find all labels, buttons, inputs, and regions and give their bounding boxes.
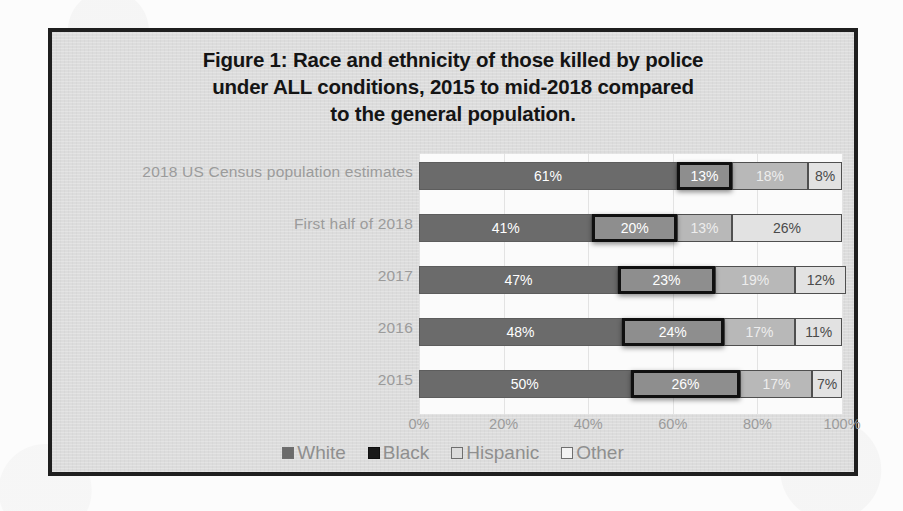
bar-segment-hispanic: 17% bbox=[740, 370, 812, 398]
legend-swatch-icon bbox=[561, 447, 573, 459]
segment-value-label: 19% bbox=[741, 273, 769, 287]
bar-segment-other: 26% bbox=[732, 214, 842, 242]
segment-value-label: 24% bbox=[659, 325, 687, 339]
bar-segment-other: 12% bbox=[795, 266, 846, 294]
legend-label: Black bbox=[383, 442, 429, 464]
segment-value-label: 26% bbox=[671, 377, 699, 391]
x-axis-tick: 100% bbox=[823, 416, 860, 432]
figure-panel: Figure 1: Race and ethnicity of those ki… bbox=[48, 28, 858, 476]
segment-value-label: 17% bbox=[745, 325, 773, 339]
x-axis-tick: 20% bbox=[489, 416, 518, 432]
stacked-bar: 50%26%17%7% bbox=[419, 370, 842, 398]
segment-value-label: 12% bbox=[807, 273, 835, 287]
segment-value-label: 17% bbox=[762, 377, 790, 391]
bar-segment-black: 23% bbox=[618, 266, 715, 294]
segment-value-label: 23% bbox=[652, 273, 680, 287]
x-axis-tick: 0% bbox=[409, 416, 430, 432]
chart-row: 2018 US Census population estimates61%13… bbox=[52, 150, 854, 202]
bar-segment-black: 24% bbox=[622, 318, 724, 346]
legend-item-hispanic[interactable]: Hispanic bbox=[451, 442, 539, 464]
chart-row: 201550%26%17%7% bbox=[52, 358, 854, 410]
segment-value-label: 7% bbox=[817, 377, 837, 391]
stacked-bar: 61%13%18%8% bbox=[419, 162, 842, 190]
page-canvas: Figure 1: Race and ethnicity of those ki… bbox=[0, 0, 903, 511]
legend-item-white[interactable]: White bbox=[282, 442, 346, 464]
segment-value-label: 20% bbox=[621, 221, 649, 235]
x-axis: 0%20%40%60%80%100% bbox=[419, 416, 842, 438]
segment-value-label: 18% bbox=[756, 169, 784, 183]
bar-segment-black: 13% bbox=[677, 162, 732, 190]
segment-value-label: 41% bbox=[492, 221, 520, 235]
bar-segment-white: 41% bbox=[419, 214, 592, 242]
legend-swatch-icon bbox=[282, 447, 294, 459]
figure-title-line-2: under ALL conditions, 2015 to mid-2018 c… bbox=[86, 73, 820, 100]
segment-value-label: 26% bbox=[773, 221, 801, 235]
legend-label: Other bbox=[576, 442, 624, 464]
segment-value-label: 48% bbox=[507, 325, 535, 339]
row-label: 2017 bbox=[378, 267, 413, 285]
chart-row: 201747%23%19%12% bbox=[52, 254, 854, 306]
figure-title-line-3: to the general population. bbox=[86, 100, 820, 127]
segment-value-label: 61% bbox=[534, 169, 562, 183]
bar-segment-other: 8% bbox=[808, 162, 842, 190]
x-axis-tick: 60% bbox=[658, 416, 687, 432]
row-label: 2018 US Census population estimates bbox=[142, 163, 413, 181]
bar-segment-black: 20% bbox=[592, 214, 677, 242]
stacked-bar: 41%20%13%26% bbox=[419, 214, 842, 242]
figure-title: Figure 1: Race and ethnicity of those ki… bbox=[86, 46, 820, 127]
legend-item-other[interactable]: Other bbox=[561, 442, 624, 464]
bar-segment-white: 48% bbox=[419, 318, 622, 346]
bar-segment-hispanic: 19% bbox=[715, 266, 795, 294]
stacked-bar: 48%24%17%11% bbox=[419, 318, 842, 346]
bar-segment-white: 50% bbox=[419, 370, 631, 398]
bar-segment-hispanic: 17% bbox=[724, 318, 796, 346]
stacked-bar: 47%23%19%12% bbox=[419, 266, 842, 294]
segment-value-label: 11% bbox=[805, 325, 832, 339]
stacked-bar-chart: 2018 US Census population estimates61%13… bbox=[52, 150, 854, 472]
chart-row: First half of 201841%20%13%26% bbox=[52, 202, 854, 254]
bar-segment-white: 47% bbox=[419, 266, 618, 294]
legend-label: Hispanic bbox=[466, 442, 539, 464]
row-label: 2016 bbox=[378, 319, 413, 337]
segment-value-label: 8% bbox=[815, 169, 835, 183]
row-label: 2015 bbox=[378, 371, 413, 389]
legend-swatch-icon bbox=[368, 447, 380, 459]
row-label: First half of 2018 bbox=[294, 215, 413, 233]
legend-item-black[interactable]: Black bbox=[368, 442, 429, 464]
bar-segment-white: 61% bbox=[419, 162, 677, 190]
bar-segment-hispanic: 13% bbox=[677, 214, 732, 242]
bar-segment-other: 7% bbox=[812, 370, 842, 398]
segment-value-label: 13% bbox=[690, 221, 718, 235]
bar-segment-black: 26% bbox=[631, 370, 741, 398]
legend-swatch-icon bbox=[451, 447, 463, 459]
chart-row: 201648%24%17%11% bbox=[52, 306, 854, 358]
segment-value-label: 47% bbox=[504, 273, 532, 287]
x-axis-tick: 80% bbox=[743, 416, 772, 432]
bar-segment-other: 11% bbox=[795, 318, 842, 346]
bar-segment-hispanic: 18% bbox=[732, 162, 808, 190]
x-axis-tick: 40% bbox=[574, 416, 603, 432]
legend-label: White bbox=[297, 442, 346, 464]
chart-legend: WhiteBlackHispanicOther bbox=[52, 442, 854, 464]
segment-value-label: 50% bbox=[511, 377, 539, 391]
segment-value-label: 13% bbox=[690, 169, 718, 183]
figure-title-line-1: Figure 1: Race and ethnicity of those ki… bbox=[86, 46, 820, 73]
